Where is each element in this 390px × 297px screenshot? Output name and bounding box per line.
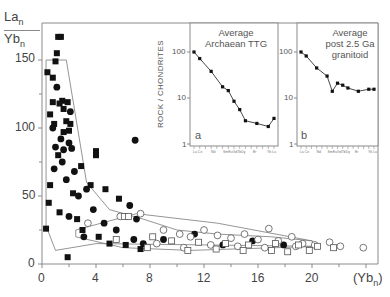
marker-open-square — [273, 241, 279, 247]
ree-point — [255, 122, 258, 125]
inset-b-title-line1: Average — [320, 27, 380, 38]
marker-open-circle — [265, 225, 272, 232]
inset-a-panel-letter: a — [195, 129, 201, 141]
marker-open-square — [125, 213, 131, 219]
marker-filled-square — [93, 152, 99, 158]
marker-open-square — [314, 243, 320, 249]
inset-a-title-line1: Average — [196, 27, 276, 38]
marker-filled-circle — [75, 193, 82, 200]
y-label-numerator: La — [4, 9, 18, 24]
marker-open-circle — [255, 236, 262, 243]
y-tick-label-0: 0 — [28, 256, 35, 270]
marker-filled-circle — [58, 135, 65, 142]
marker-filled-circle — [68, 145, 75, 152]
inset-b-ytick-100: 100 — [279, 47, 292, 56]
marker-open-circle — [137, 210, 144, 217]
marker-filled-circle — [132, 137, 139, 144]
y-tick-label-150: 150 — [15, 51, 35, 65]
marker-filled-square — [54, 50, 60, 56]
marker-filled-square — [57, 101, 63, 107]
ree-point — [341, 84, 344, 87]
marker-open-square — [269, 247, 275, 253]
ree-point — [372, 88, 375, 91]
marker-filled-square — [61, 106, 67, 112]
inset-b-ytick-1: 1 — [289, 140, 293, 149]
marker-filled-square — [78, 163, 84, 169]
marker-open-circle — [288, 233, 295, 240]
marker-open-square — [144, 245, 150, 251]
y-axis-label: Lan Ybn — [4, 10, 40, 50]
inset-a-y-axis-label: ROCK / CHONDRITES — [156, 40, 165, 128]
marker-filled-square — [116, 196, 122, 202]
marker-open-square — [169, 238, 175, 244]
ree-label: La Ce — [193, 150, 202, 154]
y-label-numerator-sub: n — [18, 17, 23, 27]
marker-filled-circle — [71, 168, 78, 175]
marker-filled-square — [44, 69, 50, 75]
marker-filled-square — [47, 182, 53, 188]
marker-filled-circle — [83, 186, 90, 193]
y-tick-label-100: 100 — [15, 120, 35, 134]
marker-filled-square — [61, 129, 67, 135]
marker-open-square — [285, 249, 291, 255]
marker-filled-square — [107, 241, 113, 247]
marker-open-square — [196, 239, 202, 245]
marker-filled-square — [50, 75, 56, 81]
marker-filled-square — [96, 234, 102, 240]
marker-filled-circle — [59, 159, 66, 166]
marker-filled-circle — [101, 220, 108, 227]
marker-open-circle — [187, 233, 194, 240]
marker-filled-circle — [67, 108, 74, 115]
ree-point — [198, 57, 201, 60]
marker-filled-square — [65, 254, 71, 260]
ree-point — [227, 89, 230, 92]
marker-filled-circle — [113, 227, 120, 234]
marker-filled-square — [47, 111, 53, 117]
marker-filled-square — [123, 242, 129, 248]
ree-label: Nd — [211, 150, 215, 154]
marker-filled-square — [55, 152, 61, 158]
marker-filled-square — [43, 226, 49, 232]
marker-filled-square — [74, 216, 80, 222]
ree-point — [238, 108, 241, 111]
ree-point — [367, 88, 370, 91]
marker-open-circle — [360, 244, 367, 251]
ree-point — [357, 90, 360, 93]
marker-open-square — [223, 241, 229, 247]
inset-a-title-line2: Archaean TTG — [196, 38, 276, 49]
marker-open-circle — [214, 232, 221, 239]
marker-filled-square — [46, 200, 52, 206]
ree-point — [232, 100, 235, 103]
x-tick-label-4: 4 — [92, 271, 99, 285]
ree-label: Yb Lu — [368, 150, 377, 154]
ree-label: Er — [355, 150, 359, 154]
marker-filled-square — [67, 121, 73, 127]
marker-open-square — [296, 242, 302, 248]
marker-filled-square — [65, 99, 71, 105]
marker-open-square — [306, 247, 312, 253]
marker-open-square — [150, 234, 156, 240]
ree-point — [305, 54, 308, 57]
marker-filled-square — [58, 34, 64, 40]
marker-open-circle — [201, 227, 208, 234]
marker-filled-circle — [52, 144, 59, 151]
ree-label: Yb Lu — [267, 150, 276, 154]
marker-open-circle — [85, 220, 92, 227]
x-tick-label-12: 12 — [197, 271, 210, 285]
marker-open-circle — [160, 227, 167, 234]
ree-label: Er — [253, 150, 257, 154]
x-label-text: (Yb — [353, 270, 373, 285]
marker-filled-square — [57, 209, 63, 215]
x-tick-label-8: 8 — [146, 271, 153, 285]
marker-filled-circle — [130, 236, 137, 243]
marker-open-circle — [261, 244, 268, 251]
marker-filled-circle — [160, 236, 167, 243]
marker-open-circle — [153, 240, 160, 247]
inset-a-ytick-100: 100 — [172, 47, 185, 56]
x-tick-label-0: 0 — [38, 271, 45, 285]
marker-open-circle — [337, 243, 344, 250]
marker-open-square — [213, 246, 219, 252]
marker-filled-circle — [60, 146, 67, 153]
ree-point — [267, 125, 270, 128]
marker-filled-circle — [51, 165, 58, 172]
